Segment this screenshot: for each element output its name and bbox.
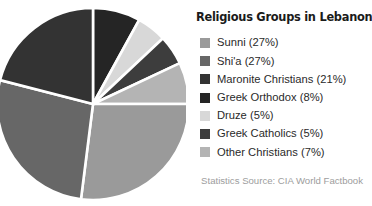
- legend-item[interactable]: Other Christians (7%): [200, 143, 372, 161]
- chart-title: Religious Groups in Lebanon: [196, 9, 358, 24]
- pie-chart-svg: [0, 6, 186, 202]
- legend-item-label: Sunni (27%): [217, 37, 279, 48]
- pie-chart-plot-area: [0, 6, 186, 202]
- legend-item[interactable]: Greek Catholics (5%): [200, 125, 372, 143]
- legend-item-label: Shi'a (27%): [217, 56, 274, 67]
- legend-item-label: Greek Orthodox (8%): [217, 92, 323, 103]
- legend-item-label: Druze (5%): [217, 110, 274, 121]
- chart-legend: Sunni (27%)Shi'a (27%)Maronite Christian…: [200, 34, 372, 161]
- legend-swatch-icon: [200, 129, 210, 139]
- legend-swatch-icon: [200, 56, 210, 66]
- legend-item-label: Maronite Christians (21%): [217, 74, 346, 85]
- legend-swatch-icon: [200, 111, 210, 121]
- legend-swatch-icon: [200, 147, 210, 157]
- legend-item[interactable]: Maronite Christians (21%): [200, 70, 372, 88]
- legend-item[interactable]: Shi'a (27%): [200, 52, 372, 70]
- legend-item[interactable]: Greek Orthodox (8%): [200, 89, 372, 107]
- legend-swatch-icon: [200, 74, 210, 84]
- pie-slice[interactable]: [81, 104, 186, 200]
- legend-item[interactable]: Druze (5%): [200, 107, 372, 125]
- legend-item-label: Greek Catholics (5%): [217, 128, 323, 139]
- chart-side-panel: Religious Groups in Lebanon Sunni (27%)S…: [186, 0, 371, 206]
- legend-swatch-icon: [200, 38, 210, 48]
- legend-swatch-icon: [200, 93, 210, 103]
- legend-item-label: Other Christians (7%): [217, 147, 325, 158]
- legend-item[interactable]: Sunni (27%): [200, 34, 372, 52]
- pie-slice-group: [0, 8, 186, 200]
- source-attribution: Statistics Source: CIA World Factbook: [172, 175, 371, 186]
